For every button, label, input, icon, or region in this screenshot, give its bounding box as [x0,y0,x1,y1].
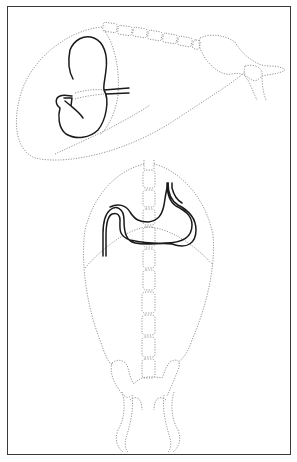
lateral-pelvis [199,35,285,81]
vd-abdomen-outline [83,164,213,365]
lateral-esophagus-hidden [75,90,104,99]
vd-left-femur [116,392,142,452]
vd-vertebral-column [142,160,155,378]
lateral-stomach [56,37,107,138]
lateral-inner-line [55,105,150,154]
anatomy-diagram [0,0,297,462]
lateral-abdomen-outline [16,27,245,160]
lateral-esophagus [104,88,129,94]
lateral-vertebrae [102,22,200,50]
ventrodorsal-view [83,160,213,452]
lateral-femur [244,65,266,100]
lateral-view [16,22,285,160]
vd-stomach [103,183,196,256]
vd-right-femur [154,392,180,452]
vd-diaphragm [85,227,213,268]
lateral-pylorus [64,98,83,118]
vd-pelvis [111,360,179,397]
